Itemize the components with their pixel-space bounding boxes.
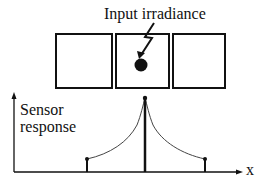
input-irradiance-label: Input irradiance <box>104 6 206 22</box>
x-axis <box>14 170 243 175</box>
lightning-arrow-icon <box>137 23 154 59</box>
y-axis-label: Sensor response <box>20 101 76 135</box>
stem-left <box>85 157 89 172</box>
y-axis-label-line2: response <box>20 118 76 135</box>
sensor-box-right <box>173 34 225 88</box>
diagram-canvas <box>0 0 265 186</box>
sensor-crosstalk-diagram: Input irradiance Sensor response x <box>0 0 265 186</box>
stem-right <box>203 157 207 172</box>
x-axis-label: x <box>246 162 254 178</box>
irradiance-spot <box>135 59 148 72</box>
stem-center <box>143 96 147 172</box>
y-axis-label-line1: Sensor <box>20 101 76 118</box>
y-axis <box>12 92 17 172</box>
sensor-box-left <box>56 34 112 88</box>
